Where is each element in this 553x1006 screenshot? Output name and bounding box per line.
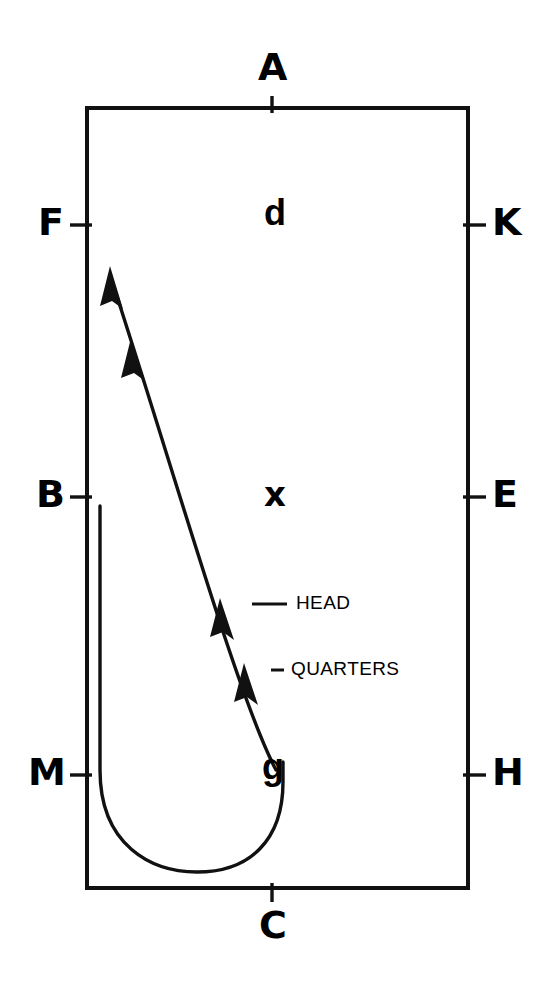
- trajectory-arrowheads: [100, 266, 258, 705]
- edge-label-H: H: [492, 753, 524, 791]
- edge-label-B: B: [36, 475, 65, 513]
- arrowhead-second: [121, 338, 145, 381]
- interior-label-g: g: [262, 749, 284, 785]
- edge-label-C: C: [259, 906, 287, 944]
- callout-label-quarters: QUARTERS: [291, 659, 399, 678]
- edge-label-M: M: [28, 753, 66, 791]
- edge-label-K: K: [492, 203, 521, 241]
- edge-label-A: A: [258, 48, 287, 86]
- edge-label-E: E: [492, 475, 518, 513]
- edge-label-F: F: [38, 203, 64, 241]
- diagram-canvas: A C F B M K E H d x g HEAD QUARTERS: [0, 0, 553, 1006]
- interior-label-d: d: [264, 195, 286, 231]
- arrowhead-tip: [100, 266, 123, 309]
- callout-leaders: [252, 604, 287, 670]
- interior-label-x: x: [264, 477, 286, 511]
- u-shaped-loop-curve: [100, 506, 283, 872]
- callout-label-head: HEAD: [296, 593, 350, 612]
